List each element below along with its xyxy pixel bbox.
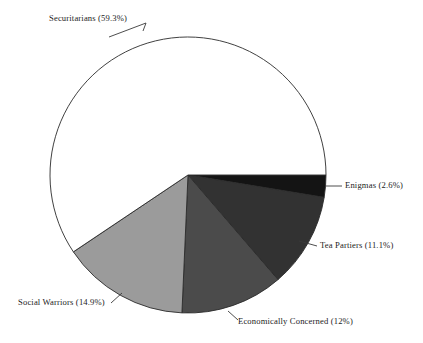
pie-slices [50, 37, 326, 313]
slice-label-economically-concerned: Economically Concerned (12%) [238, 317, 353, 326]
slice-label-social-warriors: Social Warriors (14.9%) [18, 298, 105, 307]
slice-label-enigmas: Enigmas (2.6%) [345, 181, 403, 190]
pie-chart-figure: Securitarians (59.3%) Enigmas (2.6%) Tea… [0, 0, 423, 343]
leader-line-social-warriors [111, 293, 122, 303]
slice-label-tea-partiers: Tea Partiers (11.1%) [320, 241, 393, 250]
slice-label-securitarians: Securitarians (59.3%) [49, 14, 127, 23]
pie-chart-canvas [0, 0, 423, 343]
leader-line-economically-concerned [228, 311, 238, 320]
leader-line-securitarians [109, 23, 146, 37]
